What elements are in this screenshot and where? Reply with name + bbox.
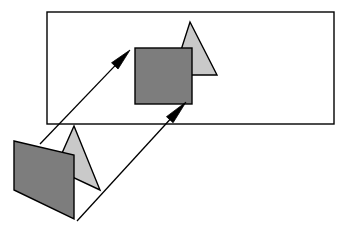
projection-diagram-svg — [0, 0, 349, 237]
projected-square — [135, 48, 192, 104]
diagram-canvas — [0, 0, 349, 237]
